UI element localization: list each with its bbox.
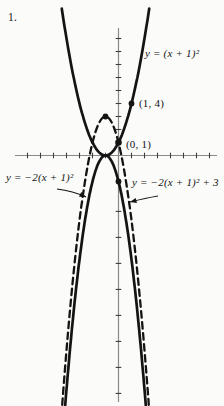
point-label-0-1: (0, 1) bbox=[126, 138, 151, 150]
marked-point bbox=[115, 139, 122, 146]
exercise-number: 1. bbox=[8, 11, 17, 24]
figure: 1. y = (x + 1)² (1, 4) (0, 1) y = −2(x +… bbox=[0, 0, 224, 406]
graph-plot bbox=[0, 0, 224, 406]
marked-point bbox=[103, 114, 109, 120]
marked-point bbox=[116, 179, 122, 185]
curve-solid-0 bbox=[62, 9, 149, 156]
equation-label-down-parabola: y = −2(x + 1)² bbox=[6, 171, 73, 183]
marked-point bbox=[129, 101, 135, 107]
equation-label-up-parabola: y = (x + 1)² bbox=[145, 47, 199, 59]
curve-dashed-2 bbox=[62, 117, 149, 405]
point-label-1-4: (1, 4) bbox=[139, 97, 164, 109]
equation-label-down-shifted-parabola: y = −2(x + 1)² + 3 bbox=[132, 176, 219, 188]
